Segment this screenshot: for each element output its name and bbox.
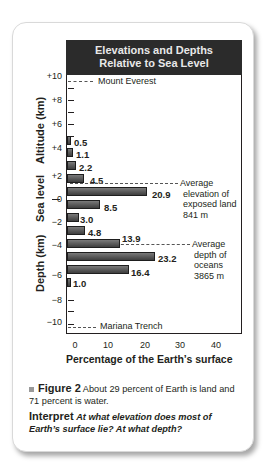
bar-value: 13.9 <box>122 234 141 244</box>
bar-4-5km <box>67 136 71 145</box>
bar-value: 16.4 <box>131 268 150 278</box>
y-minor-tick <box>68 324 74 325</box>
bar-value: 2.2 <box>79 163 92 173</box>
bar-value: 0.5 <box>74 138 87 148</box>
sea-level-tick <box>52 199 60 200</box>
bar-value: 1.1 <box>76 150 89 160</box>
x-tick-label: 10 <box>98 340 118 350</box>
bar-value: 20.9 <box>152 190 171 200</box>
bar-neg2-neg3km <box>67 226 85 235</box>
everest-line <box>68 81 93 82</box>
y-tick-label: +10 <box>38 71 62 81</box>
x-tick-label: 0 <box>65 340 85 350</box>
bar-neg4-neg5km <box>67 252 155 261</box>
avg-land-label: Average elevation of exposed land 841 m <box>180 178 237 220</box>
y-tick-label: −10 <box>38 317 62 327</box>
bar-value: 1.0 <box>73 279 86 289</box>
figure-label: Figure 2 <box>38 382 81 394</box>
y-minor-tick <box>68 300 74 301</box>
bar-neg5-neg6km <box>67 265 129 274</box>
y-tick-label: −8 <box>38 295 62 305</box>
x-tick-label: 40 <box>206 340 226 350</box>
y-minor-tick <box>68 88 74 89</box>
bar-0-neg1km <box>67 200 100 209</box>
bar-value: 3.0 <box>80 215 93 225</box>
y-minor-tick <box>68 124 74 125</box>
bar-value: 4.5 <box>90 176 103 186</box>
chart-title: Elevations and Depths Relative to Sea Le… <box>66 40 242 75</box>
x-axis-title: Percentage of the Earth’s surface <box>66 353 233 365</box>
chart-title-line-2: Relative to Sea Level <box>66 57 242 70</box>
figure-caption: Figure 2 About 29 percent of Earth is la… <box>29 382 239 407</box>
x-tick-label: 20 <box>135 340 155 350</box>
bar-3-4km <box>67 148 73 157</box>
x-tick-label: 30 <box>170 340 190 350</box>
depth-axis-title: Depth (km) <box>34 235 46 292</box>
interpret-prompt: Interpret At what elevation does most of… <box>29 410 239 435</box>
bar-neg6-neg7km <box>67 278 71 287</box>
bar-0-1km <box>67 187 147 196</box>
avg-ocean-label: Average depth of oceans 3865 m <box>192 239 227 281</box>
bar-value: 23.2 <box>158 254 177 264</box>
sea-level-axis-title: Sea level <box>34 175 46 222</box>
bar-value: 8.5 <box>104 203 117 213</box>
y-minor-tick <box>68 311 74 312</box>
altitude-axis-title: Altitude (km) <box>34 97 46 164</box>
trench-label: Mariana Trench <box>100 321 163 332</box>
bullet-icon <box>29 387 34 392</box>
everest-label: Mount Everest <box>98 76 156 87</box>
bar-2-3km <box>67 161 76 170</box>
chart-title-line-1: Elevations and Depths <box>66 44 242 57</box>
bar-value: 4.8 <box>88 228 101 238</box>
interpret-label: Interpret <box>29 410 74 422</box>
trench-line <box>68 327 96 328</box>
avg-ocean-line <box>70 244 190 245</box>
y-minor-tick <box>68 112 74 113</box>
avg-land-line <box>70 183 178 184</box>
bar-neg1-neg2km <box>67 213 79 222</box>
y-minor-tick <box>68 100 74 101</box>
bar-1-2km <box>67 174 84 183</box>
